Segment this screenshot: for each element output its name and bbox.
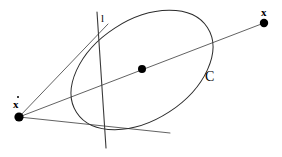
point-x-dot-marker [14, 112, 23, 121]
diagram-canvas [0, 0, 282, 157]
conic-c-label: C [205, 70, 214, 84]
point-x-label: x [261, 7, 267, 18]
point-x-marker [260, 19, 268, 27]
upper-tangent-line [19, 24, 108, 117]
rays-group [19, 23, 264, 133]
point-x-dot-label: x [13, 99, 19, 110]
line-l-label: l [101, 13, 104, 24]
x-dot-accent-icon [17, 96, 19, 98]
conic-diagram-figure: x x l C [0, 0, 282, 157]
point-conic-center-marker [138, 65, 146, 73]
points-group [14, 19, 268, 122]
lower-tangent-line [19, 117, 170, 133]
